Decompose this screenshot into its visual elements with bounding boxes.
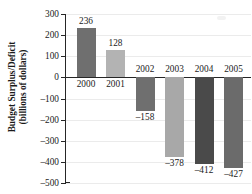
plot-area: 23620001282001–1582002–3782003–4122004–4… — [65, 14, 251, 183]
y-axis-title-line2: (billions of dollars) — [18, 7, 29, 167]
budget-deficit-bar-chart: Budget Surplus/Deficit (billions of doll… — [0, 0, 251, 194]
y-axis-tick — [61, 183, 66, 184]
y-axis-tick — [61, 162, 66, 163]
y-axis-tick — [61, 56, 66, 57]
y-axis-tick — [61, 99, 66, 100]
top-artifact — [217, 16, 226, 20]
bar-2004 — [195, 77, 214, 164]
y-axis-title-line1: Budget Surplus/Deficit — [7, 42, 17, 133]
y-axis-tick-label: 200 — [29, 31, 59, 40]
gridline — [66, 14, 251, 15]
y-axis-tick-label: 300 — [29, 10, 59, 19]
category-label-2001: 2001 — [96, 80, 136, 89]
bar-value-label-2002: –158 — [125, 113, 165, 122]
y-axis-tick — [61, 14, 66, 15]
y-axis-tick-label: –400 — [29, 158, 59, 167]
category-label-2005: 2005 — [214, 65, 252, 74]
bar-2003 — [165, 77, 184, 157]
bar-2000 — [77, 28, 96, 78]
y-axis-tick-label: –500 — [29, 179, 59, 188]
y-axis-tick-label: –300 — [29, 137, 59, 146]
bar-value-label-2000: 236 — [66, 17, 106, 26]
gridline — [66, 183, 251, 184]
y-axis-tick — [61, 35, 66, 36]
bar-2002 — [136, 77, 155, 110]
y-axis-tick — [61, 141, 66, 142]
y-axis-tick-label: 100 — [29, 52, 59, 61]
bar-value-label-2001: 128 — [96, 39, 136, 48]
y-axis-tick-label: 0 — [29, 73, 59, 82]
bar-2005 — [224, 77, 243, 167]
bar-value-label-2005: –427 — [214, 170, 252, 179]
y-axis-tick-label: –100 — [29, 95, 59, 104]
y-axis-title: Budget Surplus/Deficit (billions of doll… — [0, 0, 30, 194]
bar-2001 — [106, 50, 125, 77]
y-axis-tick — [61, 120, 66, 121]
y-axis-tick-label: –200 — [29, 116, 59, 125]
y-axis-tick — [61, 77, 66, 78]
